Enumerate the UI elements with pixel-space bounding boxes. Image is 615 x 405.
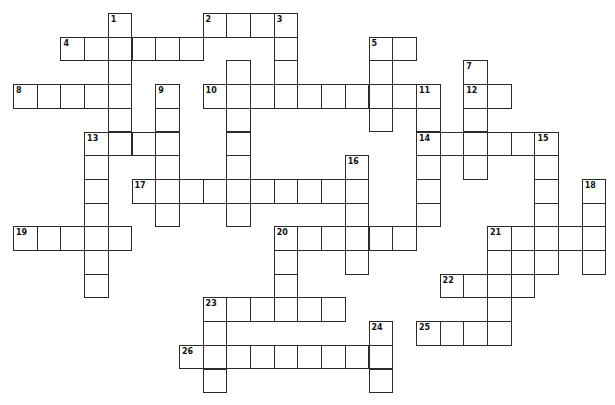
grid-cell[interactable] (132, 37, 157, 62)
grid-cell[interactable] (108, 132, 133, 157)
grid-cell[interactable] (345, 203, 370, 228)
grid-cell[interactable] (297, 84, 322, 109)
grid-cell[interactable] (60, 226, 85, 251)
grid-cell[interactable] (321, 179, 346, 204)
grid-cell[interactable] (84, 179, 109, 204)
grid-cell[interactable] (345, 345, 370, 370)
grid-cell[interactable]: 17 (132, 179, 157, 204)
grid-cell[interactable] (108, 226, 133, 251)
grid-cell[interactable]: 1 (108, 13, 133, 38)
grid-cell[interactable] (84, 250, 109, 275)
grid-cell[interactable] (155, 108, 180, 133)
grid-cell[interactable] (226, 13, 251, 38)
grid-cell[interactable] (582, 203, 607, 228)
grid-cell[interactable] (297, 226, 322, 251)
grid-cell[interactable] (250, 84, 275, 109)
grid-cell[interactable] (463, 155, 488, 180)
grid-cell[interactable] (84, 274, 109, 299)
grid-cell[interactable] (487, 84, 512, 109)
grid-cell[interactable] (274, 179, 299, 204)
grid-cell[interactable]: 21 (487, 226, 512, 251)
grid-cell[interactable] (534, 226, 559, 251)
grid-cell[interactable]: 20 (274, 226, 299, 251)
grid-cell[interactable] (203, 179, 228, 204)
grid-cell[interactable] (155, 37, 180, 62)
grid-cell[interactable] (250, 179, 275, 204)
grid-cell[interactable] (440, 321, 465, 346)
grid-cell[interactable] (226, 203, 251, 228)
grid-cell[interactable] (534, 179, 559, 204)
grid-cell[interactable] (226, 345, 251, 370)
grid-cell[interactable]: 9 (155, 84, 180, 109)
grid-cell[interactable] (203, 369, 228, 394)
grid-cell[interactable]: 24 (369, 321, 394, 346)
grid-cell[interactable] (582, 250, 607, 275)
grid-cell[interactable]: 18 (582, 179, 607, 204)
grid-cell[interactable] (392, 226, 417, 251)
grid-cell[interactable] (155, 155, 180, 180)
grid-cell[interactable]: 7 (463, 60, 488, 85)
grid-cell[interactable] (392, 84, 417, 109)
grid-cell[interactable] (511, 274, 536, 299)
grid-cell[interactable] (274, 37, 299, 62)
grid-cell[interactable] (487, 274, 512, 299)
grid-cell[interactable]: 16 (345, 155, 370, 180)
grid-cell[interactable]: 13 (84, 132, 109, 157)
grid-cell[interactable] (487, 132, 512, 157)
grid-cell[interactable] (250, 297, 275, 322)
grid-cell[interactable]: 12 (463, 84, 488, 109)
grid-cell[interactable] (416, 179, 441, 204)
grid-cell[interactable] (226, 297, 251, 322)
grid-cell[interactable] (369, 369, 394, 394)
grid-cell[interactable] (463, 132, 488, 157)
grid-cell[interactable]: 2 (203, 13, 228, 38)
grid-cell[interactable] (274, 84, 299, 109)
grid-cell[interactable] (297, 179, 322, 204)
grid-cell[interactable] (416, 155, 441, 180)
grid-cell[interactable]: 10 (203, 84, 228, 109)
grid-cell[interactable] (463, 108, 488, 133)
grid-cell[interactable] (226, 132, 251, 157)
grid-cell[interactable] (203, 321, 228, 346)
grid-cell[interactable] (487, 250, 512, 275)
grid-cell[interactable] (511, 250, 536, 275)
grid-cell[interactable] (84, 203, 109, 228)
grid-cell[interactable] (511, 226, 536, 251)
grid-cell[interactable]: 19 (13, 226, 38, 251)
grid-cell[interactable] (487, 321, 512, 346)
grid-cell[interactable] (274, 345, 299, 370)
grid-cell[interactable] (369, 84, 394, 109)
grid-cell[interactable] (274, 274, 299, 299)
grid-cell[interactable] (297, 345, 322, 370)
grid-cell[interactable] (582, 226, 607, 251)
grid-cell[interactable] (558, 226, 583, 251)
grid-cell[interactable]: 25 (416, 321, 441, 346)
grid-cell[interactable] (108, 84, 133, 109)
grid-cell[interactable] (226, 84, 251, 109)
grid-cell[interactable]: 23 (203, 297, 228, 322)
grid-cell[interactable] (440, 132, 465, 157)
grid-cell[interactable] (179, 179, 204, 204)
grid-cell[interactable] (274, 60, 299, 85)
grid-cell[interactable] (84, 226, 109, 251)
grid-cell[interactable] (321, 226, 346, 251)
grid-cell[interactable] (416, 108, 441, 133)
grid-cell[interactable] (511, 132, 536, 157)
grid-cell[interactable]: 22 (440, 274, 465, 299)
grid-cell[interactable] (345, 179, 370, 204)
grid-cell[interactable] (345, 226, 370, 251)
grid-cell[interactable] (226, 108, 251, 133)
grid-cell[interactable] (369, 60, 394, 85)
grid-cell[interactable] (297, 297, 322, 322)
grid-cell[interactable]: 3 (274, 13, 299, 38)
grid-cell[interactable]: 8 (13, 84, 38, 109)
grid-cell[interactable] (203, 345, 228, 370)
grid-cell[interactable] (534, 250, 559, 275)
grid-cell[interactable]: 11 (416, 84, 441, 109)
grid-cell[interactable] (155, 132, 180, 157)
grid-cell[interactable] (226, 179, 251, 204)
grid-cell[interactable] (37, 84, 62, 109)
grid-cell[interactable] (60, 84, 85, 109)
grid-cell[interactable] (321, 84, 346, 109)
grid-cell[interactable] (392, 37, 417, 62)
